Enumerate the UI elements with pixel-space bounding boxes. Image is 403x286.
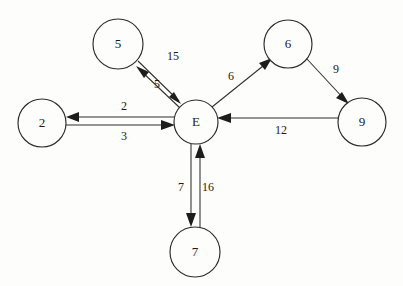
edge-6-to-9: 9 xyxy=(307,59,349,104)
edge-5-to-E-weight: 15 xyxy=(167,49,179,63)
edge-E-to-2-arrowhead xyxy=(66,112,79,122)
node-9[interactable]: 9 xyxy=(338,98,386,146)
edge-2-to-E: 3 xyxy=(66,120,175,143)
node-5-label: 5 xyxy=(115,36,122,51)
edge-E-to-6: 6 xyxy=(212,58,272,107)
node-E[interactable]: E xyxy=(174,100,218,144)
edge-E-to-7: 7 xyxy=(178,144,196,227)
node-5[interactable]: 5 xyxy=(93,19,143,69)
node-6-label: 6 xyxy=(285,36,292,51)
node-6[interactable]: 6 xyxy=(264,20,312,68)
node-2-label: 2 xyxy=(39,115,46,130)
node-E-label: E xyxy=(192,114,200,129)
edge-2-to-E-arrowhead xyxy=(161,120,175,130)
edge-2-to-E-weight: 3 xyxy=(121,129,127,143)
edge-7-to-E-weight: 16 xyxy=(202,180,214,194)
node-2[interactable]: 2 xyxy=(18,99,66,147)
edge-E-to-7-weight: 7 xyxy=(178,180,184,194)
diagram-canvas: 15 5 2 3 6 9 xyxy=(0,0,403,286)
edge-9-to-E-weight: 12 xyxy=(275,123,287,137)
node-7-label: 7 xyxy=(192,244,199,259)
edge-7-to-E: 16 xyxy=(195,144,214,228)
edge-E-to-5: 5 xyxy=(136,66,180,108)
node-7[interactable]: 7 xyxy=(170,227,220,277)
edge-E-to-2: 2 xyxy=(66,99,174,122)
edge-E-to-7-arrowhead xyxy=(186,213,196,227)
edge-6-to-9-weight: 9 xyxy=(333,62,339,76)
edge-9-to-E: 12 xyxy=(217,113,338,137)
edge-6-to-9-line xyxy=(307,59,345,100)
edge-E-to-5-weight: 5 xyxy=(154,77,160,91)
node-9-label: 9 xyxy=(359,114,366,129)
edge-7-to-E-arrowhead xyxy=(195,144,205,158)
edge-6-to-9-arrowhead xyxy=(336,92,349,104)
edge-E-to-6-line xyxy=(212,62,268,107)
edge-9-to-E-arrowhead xyxy=(217,113,231,123)
graph-svg: 15 5 2 3 6 9 xyxy=(0,0,403,286)
edge-5-to-E-arrowhead xyxy=(169,92,181,104)
edge-E-to-2-weight: 2 xyxy=(121,99,127,113)
edge-E-to-5-line xyxy=(140,70,180,108)
edge-E-to-6-weight: 6 xyxy=(228,69,234,83)
